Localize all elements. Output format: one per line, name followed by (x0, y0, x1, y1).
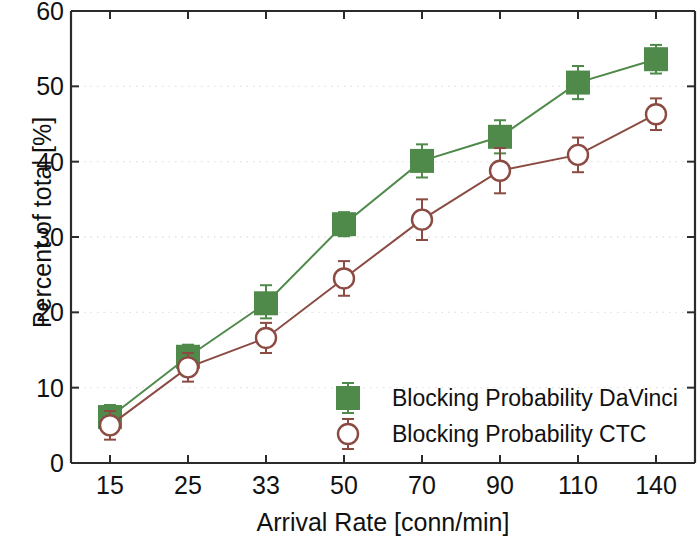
x-tick-label: 70 (387, 471, 457, 500)
x-tick-label: 90 (465, 471, 535, 500)
marker-square (333, 213, 355, 235)
legend-marker-square (337, 387, 359, 409)
y-tick-label: 40 (6, 147, 64, 176)
marker-circle (334, 268, 354, 288)
marker-circle (568, 145, 588, 165)
x-axis-title: Arrival Rate [conn/min] (71, 508, 695, 537)
y-tick-label-group: 0102030405060 (0, 0, 64, 546)
marker-circle (100, 415, 120, 435)
marker-square (489, 126, 511, 148)
x-tick-label: 140 (621, 471, 691, 500)
legend-label: Blocking Probability CTC (392, 421, 646, 447)
marker-circle (412, 210, 432, 230)
x-tick-label: 15 (75, 471, 145, 500)
x-tick-label: 50 (309, 471, 379, 500)
x-tick-label: 110 (543, 471, 613, 500)
y-tick-label: 0 (6, 449, 64, 478)
plot-canvas: Blocking Probability DaVinciBlocking Pro… (0, 0, 700, 546)
marker-circle (646, 104, 666, 124)
y-tick-label: 10 (6, 373, 64, 402)
legend-marker-circle (338, 424, 358, 444)
y-tick-label: 60 (6, 0, 64, 26)
x-tick-label: 25 (153, 471, 223, 500)
marker-circle (256, 328, 276, 348)
y-tick-label: 20 (6, 298, 64, 327)
x-tick-label: 33 (231, 471, 301, 500)
chart-figure: Percent of total [%] Arrival Rate [conn/… (0, 0, 700, 546)
marker-circle (178, 357, 198, 377)
marker-square (645, 48, 667, 70)
marker-circle (490, 161, 510, 181)
marker-square (255, 292, 277, 314)
marker-square (411, 150, 433, 172)
legend-label: Blocking Probability DaVinci (392, 385, 678, 411)
y-tick-label: 30 (6, 223, 64, 252)
marker-square (567, 72, 589, 94)
y-tick-label: 50 (6, 72, 64, 101)
